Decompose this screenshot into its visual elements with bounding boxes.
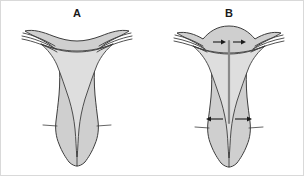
panel-a-illustration (1, 1, 153, 176)
panel-b: B (153, 1, 304, 176)
panel-b-illustration (153, 1, 304, 176)
fornix-tick-left-a (43, 125, 57, 126)
fornix-tick-left-b (195, 127, 209, 128)
fornix-tick-right-a (97, 125, 111, 126)
uterine-cavity-a (41, 44, 113, 157)
panel-a: A (1, 1, 153, 176)
fornix-tick-right-b (249, 127, 263, 128)
anatomical-figure: A B (0, 0, 304, 176)
